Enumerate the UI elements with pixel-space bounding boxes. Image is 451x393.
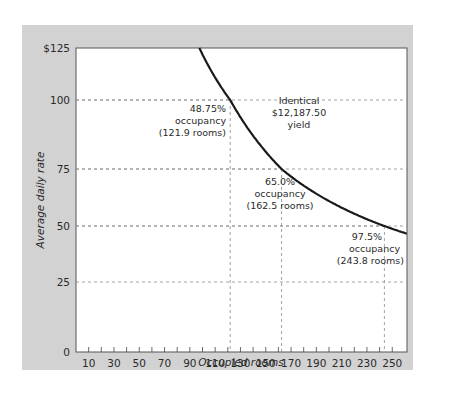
x-tick-label: 230 (357, 357, 377, 369)
y-tick-label: $125 (43, 42, 70, 54)
x-tick-label: 10 (82, 357, 95, 369)
y-tick-label: 0 (63, 346, 70, 358)
x-tick-label: 170 (281, 357, 301, 369)
point2-label-line2: occupancy (255, 188, 306, 199)
point1-label-line2: occupancy (175, 115, 226, 126)
x-tick-label: 50 (133, 357, 146, 369)
yield-annotation-line2: $12,187.50 (272, 107, 326, 118)
yield-annotation-line1: Identical (279, 95, 320, 106)
y-tick-label: 50 (57, 220, 70, 232)
point3-label-line3: (243.8 rooms) (337, 255, 404, 266)
y-axis-ticks: 0255075100$125 (43, 42, 70, 358)
point1-label-line3: (121.9 rooms) (159, 127, 226, 138)
y-tick-label: 100 (50, 94, 70, 106)
x-tick-label: 190 (306, 357, 326, 369)
x-tick-label: 90 (183, 357, 196, 369)
plot-area (76, 48, 407, 352)
yield-chart: 1030507090110130150170190210230250 02550… (0, 0, 451, 393)
point3-label-line1: 97.5% (352, 231, 382, 242)
x-tick-label: 70 (158, 357, 171, 369)
point1-label-line1: 48.75% (190, 103, 226, 114)
yield-annotation-line3: yield (288, 119, 311, 130)
x-tick-label: 250 (382, 357, 402, 369)
x-axis-title: Occupied rooms (198, 356, 284, 368)
y-axis-title: Average daily rate (34, 152, 46, 250)
x-tick-label: 30 (107, 357, 120, 369)
y-tick-label: 75 (57, 163, 70, 175)
point2-label-line1: 65.0% (265, 176, 295, 187)
x-tick-label: 210 (332, 357, 352, 369)
y-tick-label: 25 (57, 276, 70, 288)
point3-label-line2: occupancy (349, 243, 400, 254)
point2-label-line3: (162.5 rooms) (246, 200, 313, 211)
